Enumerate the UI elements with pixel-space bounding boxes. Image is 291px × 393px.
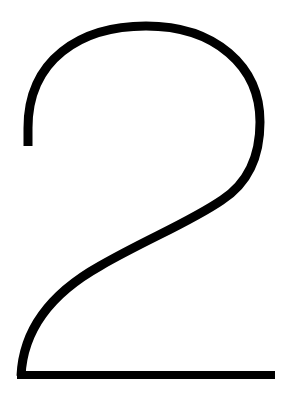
numeral-two-glyph (0, 0, 291, 393)
numeral-curve-stroke (21, 26, 260, 376)
